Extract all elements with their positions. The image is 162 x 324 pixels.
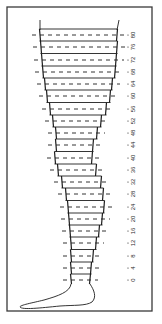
axis-label-0: 0 [130,278,136,282]
axis-label-16: 16 [130,227,136,234]
axis-label-64: 64 [130,80,136,87]
measurement-dashed-lines [32,35,125,280]
axis-tick [127,46,128,47]
axis-label-68: 68 [130,68,136,75]
axis-tick [127,193,128,194]
axis-label-80: 80 [130,31,136,38]
axis-tick [127,157,128,158]
axis-label-76: 76 [130,43,136,50]
thigh-top-edges [40,20,119,30]
axis-tick [127,267,128,268]
axis-label-20: 20 [130,215,136,222]
segment-right-edge [90,274,91,284]
axis-tick [127,279,128,280]
axis-label-56: 56 [130,105,136,112]
axis-label-40: 40 [130,154,136,161]
foot-outline [20,284,95,309]
axis-tick [127,71,128,72]
axis-tick [127,120,128,121]
axis-label-28: 28 [130,190,136,197]
axis-label-48: 48 [130,129,136,136]
segment-right-edge [117,29,118,41]
axis-tick [127,59,128,60]
axis-tick [127,83,128,84]
axis-tick [127,242,128,243]
axis-label-12: 12 [130,239,136,246]
leg-segment-outline [40,29,118,284]
axis-tick [127,95,128,96]
axis-tick [127,181,128,182]
axis-label-8: 8 [130,254,136,258]
axis-label-52: 52 [130,117,136,124]
axis-label-36: 36 [130,166,136,173]
axis-tick [127,218,128,219]
axis-label-72: 72 [130,56,136,63]
segment-right-edge [99,225,100,237]
thigh-right-edge [117,20,119,30]
measurement-axis-labels: 807672686460565248444036322824201612840 [127,31,136,282]
axis-tick [127,169,128,170]
segment-left-edge [71,274,72,284]
axis-tick [127,34,128,35]
segment-right-edge [92,152,93,165]
axis-tick [127,206,128,207]
axis-label-4: 4 [130,266,136,270]
segment-right-edge [110,90,111,103]
axis-tick [127,255,128,256]
segment-right-edge [96,164,97,176]
axis-label-60: 60 [130,92,136,99]
segment-right-edge [93,250,94,263]
axis-label-24: 24 [130,203,136,210]
segment-right-edge [101,176,102,188]
axis-label-32: 32 [130,178,136,185]
axis-tick [127,108,128,109]
axis-tick [127,230,128,231]
axis-label-44: 44 [130,141,136,148]
axis-tick [127,132,128,133]
leg-chart-svg: 807672686460565248444036322824201612840 [0,0,162,324]
segment-right-edge [93,139,94,152]
leg-measurement-diagram: 807672686460565248444036322824201612840 [0,0,162,324]
segment-right-edge [103,188,104,201]
axis-tick [127,144,128,145]
